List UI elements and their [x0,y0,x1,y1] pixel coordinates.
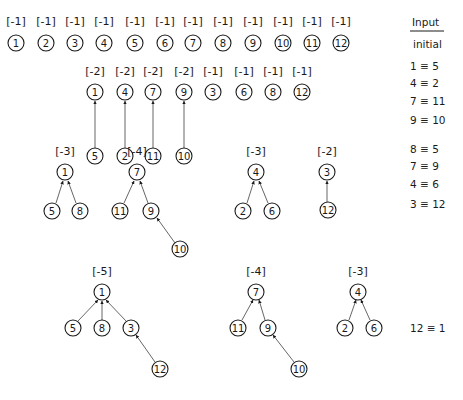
svg-text:12: 12 [335,38,348,49]
node-2: 2 [337,320,353,336]
node-8: 8 [94,320,110,336]
tree-8: [-1]8 [213,15,233,51]
svg-text:7: 7 [134,167,140,178]
node-9: 9 [245,35,261,51]
tree-6: [-1]6 [155,15,175,51]
weight-label: [-2] [174,65,194,78]
tree-2: [-1]2 [36,15,56,51]
weight-label: [-1] [292,65,312,78]
svg-text:10: 10 [178,151,191,162]
svg-text:5: 5 [49,206,55,217]
stage-after-second-unions: [-3] 1 5 8 [-4] 7 11 9 10 [-3] 4 2 6 [-2… [44,145,337,257]
svg-text:7: 7 [150,87,156,98]
node-1: 1 [8,35,24,51]
weight-label: [-1] [6,15,26,28]
node-6: 6 [366,320,382,336]
node-3: 3 [205,84,221,100]
svg-text:8: 8 [99,323,105,334]
node-6: 6 [236,84,252,100]
node-11: 11 [112,203,128,219]
node-6: 6 [264,203,280,219]
node-9: 9 [176,84,192,100]
tree-7: [-1]7 [183,15,203,51]
node-1: 1 [57,164,73,180]
svg-text:10: 10 [293,364,306,375]
tree-9: [-1]9 [243,15,263,51]
svg-text:12: 12 [154,364,167,375]
stage-after-third-union: [-5] 1 5 8 3 12 [-4] 7 11 9 10 [-3] 4 2 … [65,265,382,377]
node-8: 8 [265,84,281,100]
svg-text:9: 9 [181,87,187,98]
svg-text:3: 3 [324,167,330,178]
tree-11: [-1]11 [302,15,322,51]
weight-label: [-2] [143,65,163,78]
svg-text:5: 5 [70,323,76,334]
weight-label: [-1] [243,15,263,28]
node-5: 5 [127,35,143,51]
node-2: 2 [235,203,251,219]
stage-after-first-unions: [-2] 1 5 [-2] 4 2 [-2] 7 11 [-2] 9 10 [-… [85,65,312,164]
weight-label: [-3] [55,145,75,158]
union-find-diagram: [-1]1 [-1]2 [-1]3 [-1]4 [-1]5 [-1]6 [-1]… [0,0,463,400]
weight-label: [-3] [348,265,368,278]
svg-text:12: 12 [322,205,335,216]
weight-label: [-1] [331,15,351,28]
weight-label: [-1] [36,15,56,28]
svg-text:6: 6 [241,87,247,98]
svg-text:4: 4 [101,38,107,49]
svg-text:11: 11 [232,323,245,334]
svg-text:10: 10 [277,38,290,49]
node-9: 9 [260,320,276,336]
node-11: 11 [230,320,246,336]
svg-text:4: 4 [355,287,361,298]
svg-text:9: 9 [250,38,256,49]
weight-label: [-1] [94,15,114,28]
svg-text:1: 1 [92,87,98,98]
svg-text:9: 9 [265,323,271,334]
weight-label: [-1] [183,15,203,28]
node-10: 10 [291,361,307,377]
weight-label: [-1] [125,15,145,28]
union-7: 4 ≡ 6 [410,178,439,190]
node-8: 8 [215,35,231,51]
node-11: 11 [304,35,320,51]
union-2: 4 ≡ 2 [410,77,439,89]
weight-label: [-1] [302,15,322,28]
node-8: 8 [72,203,88,219]
weight-label: [-1] [155,15,175,28]
weight-label: [-2] [317,145,337,158]
node-4: 4 [117,84,133,100]
node-10: 10 [275,35,291,51]
tree-5: [-1]5 [125,15,145,51]
svg-text:1: 1 [62,167,68,178]
svg-text:5: 5 [92,151,98,162]
tree-12: [-1]12 [331,15,351,51]
svg-text:12: 12 [296,87,309,98]
svg-text:3: 3 [72,38,78,49]
tree-4: [-1]4 [94,15,114,51]
weight-label: [-5] [92,265,112,278]
node-5: 5 [65,320,81,336]
weight-label: [-1] [273,15,293,28]
node-7: 7 [185,35,201,51]
weight-label: [-4] [246,265,266,278]
svg-text:3: 3 [128,323,134,334]
svg-text:11: 11 [147,151,160,162]
svg-text:2: 2 [342,323,348,334]
svg-text:4: 4 [253,167,259,178]
node-4: 4 [248,164,264,180]
node-12: 12 [333,35,349,51]
svg-text:6: 6 [371,323,377,334]
initial-label: initial [413,38,442,50]
union-8: 3 ≡ 12 [410,198,446,210]
svg-text:1: 1 [99,287,105,298]
weight-label: [-4] [127,145,147,158]
node-10: 10 [172,241,188,257]
svg-text:11: 11 [114,206,127,217]
svg-text:7: 7 [253,287,259,298]
svg-text:6: 6 [162,38,168,49]
node-7: 7 [248,284,264,300]
weight-label: [-2] [85,65,105,78]
union-1: 1 ≡ 5 [410,60,439,72]
stage-initial: [-1]1 [-1]2 [-1]3 [-1]4 [-1]5 [-1]6 [-1]… [6,15,351,51]
